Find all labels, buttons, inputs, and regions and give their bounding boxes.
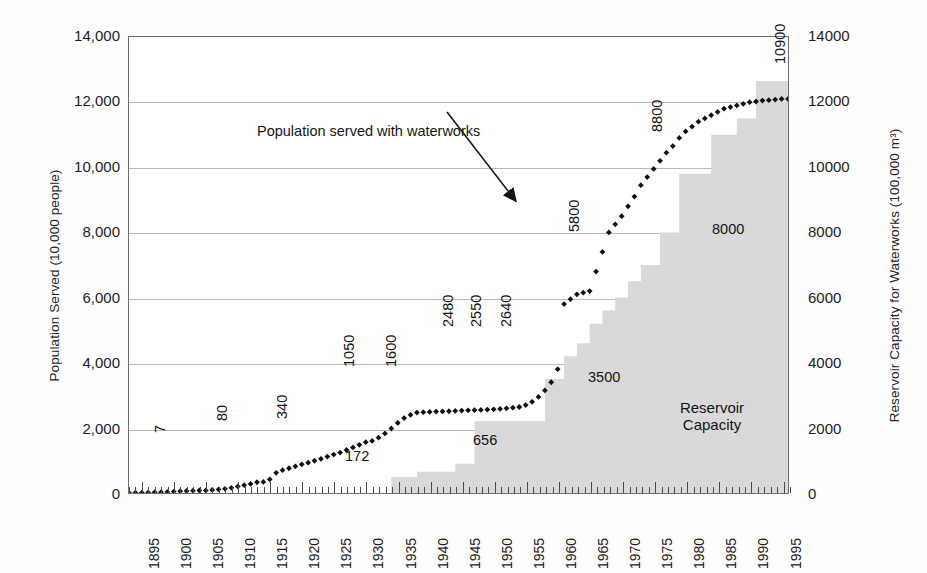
- x-ruler-tick: [187, 487, 188, 493]
- data-point-marker: [312, 458, 318, 464]
- x-ruler-tick: [142, 482, 143, 493]
- x-ruler-tick: [745, 487, 746, 493]
- x-ruler-tick: [437, 487, 438, 493]
- x-tick-label: 1930: [371, 538, 385, 569]
- x-ruler-tick: [296, 487, 297, 493]
- x-ruler-tick: [604, 487, 605, 493]
- x-tick-label: 1920: [307, 538, 321, 569]
- y-tick-label: 10000: [808, 159, 850, 174]
- x-ruler-tick: [694, 487, 695, 493]
- y-axis-right-title: Reservoir Capacity for Waterworks (100,0…: [887, 66, 902, 486]
- data-point-label: 8800: [650, 100, 665, 132]
- x-ruler-tick: [373, 487, 374, 493]
- x-ruler-tick: [456, 487, 457, 493]
- x-tick-label: 1900: [179, 538, 193, 569]
- x-ruler-tick: [649, 487, 650, 493]
- x-ruler-tick: [630, 487, 631, 493]
- x-ruler-tick: [450, 487, 451, 493]
- reservoir-callout-line1: Reservoir: [657, 399, 767, 416]
- x-axis-ruler-ticks: [129, 481, 788, 493]
- data-point-marker: [286, 465, 292, 471]
- data-point-marker: [606, 230, 612, 236]
- x-ruler-tick: [520, 487, 521, 493]
- data-point-marker: [542, 388, 548, 394]
- data-point-marker: [651, 166, 657, 172]
- data-point-label: 1050: [342, 335, 357, 367]
- x-ruler-tick: [232, 487, 233, 493]
- data-point-label: 656: [473, 433, 497, 448]
- data-point-marker: [497, 406, 503, 412]
- data-point-label: 80: [215, 405, 230, 421]
- y-tick-label: 2,000: [82, 421, 120, 436]
- data-point-label: 2480: [441, 295, 456, 327]
- data-point-marker: [420, 409, 426, 415]
- data-point-marker: [715, 109, 721, 115]
- x-ruler-tick: [180, 487, 181, 493]
- x-tick-label: 1950: [500, 538, 514, 569]
- data-point-label: 172: [345, 449, 369, 464]
- x-ruler-tick: [764, 487, 765, 493]
- x-ruler-tick: [655, 482, 656, 493]
- data-point-marker: [683, 129, 689, 135]
- y-tick-label: 14000: [808, 28, 850, 43]
- x-ruler-tick: [476, 487, 477, 493]
- x-ruler-tick: [148, 487, 149, 493]
- x-ruler-tick: [469, 487, 470, 493]
- data-point-marker: [388, 426, 394, 432]
- data-point-marker: [337, 450, 343, 456]
- x-ruler-tick: [533, 487, 534, 493]
- x-ruler-tick: [418, 487, 419, 493]
- data-point-marker: [356, 442, 362, 448]
- data-point-label: 2640: [499, 295, 514, 327]
- data-point-marker: [696, 119, 702, 125]
- data-point-marker: [747, 99, 753, 105]
- y-tick-label: 0: [112, 486, 120, 501]
- data-point-marker: [568, 296, 574, 302]
- data-point-marker: [721, 106, 727, 112]
- data-point-marker: [657, 158, 663, 164]
- x-ruler-tick: [386, 487, 387, 493]
- data-point-marker: [292, 463, 298, 469]
- x-ruler-tick: [700, 487, 701, 493]
- x-ruler-tick: [790, 487, 791, 493]
- y-tick-label: 0: [808, 486, 816, 501]
- x-ruler-tick: [674, 487, 675, 493]
- x-ruler-tick: [662, 487, 663, 493]
- data-point-marker: [625, 203, 631, 209]
- x-ruler-tick: [341, 487, 342, 493]
- x-ruler-tick: [687, 482, 688, 493]
- x-tick-label: 1985: [724, 538, 738, 569]
- x-ruler-tick: [642, 487, 643, 493]
- x-ruler-tick: [443, 487, 444, 493]
- x-ruler-tick: [732, 487, 733, 493]
- data-point-label: 1600: [384, 335, 399, 367]
- x-ruler-tick: [623, 482, 624, 493]
- x-tick-label: 1995: [789, 538, 803, 569]
- data-point-marker: [580, 290, 586, 296]
- x-ruler-tick: [617, 487, 618, 493]
- x-ruler-tick: [585, 487, 586, 493]
- data-point-marker: [395, 420, 401, 426]
- data-point-marker: [382, 431, 388, 437]
- x-ruler-tick: [379, 487, 380, 493]
- y-tick-label: 6,000: [82, 290, 120, 305]
- x-ruler-tick: [411, 487, 412, 493]
- x-ruler-tick: [514, 487, 515, 493]
- population-series-callout-label: Population served with waterworks: [257, 123, 480, 139]
- data-point-marker: [299, 461, 305, 467]
- x-ruler-tick: [431, 482, 432, 493]
- x-ruler-tick: [540, 487, 541, 493]
- x-tick-label: 1955: [532, 538, 546, 569]
- y-tick-label: 8000: [808, 224, 841, 239]
- x-ruler-tick: [354, 487, 355, 493]
- x-tick-label: 1910: [243, 538, 257, 569]
- x-ruler-tick: [527, 482, 528, 493]
- x-ruler-tick: [636, 487, 637, 493]
- data-point-marker: [734, 103, 740, 109]
- data-point-label: 340: [275, 395, 290, 419]
- data-point-marker: [536, 394, 542, 400]
- y-axis-left-ticks: 02,0004,0006,0008,00010,00012,00014,000: [34, 0, 120, 573]
- x-ruler-tick: [225, 487, 226, 493]
- data-point-marker: [632, 194, 638, 200]
- data-point-marker: [785, 96, 788, 102]
